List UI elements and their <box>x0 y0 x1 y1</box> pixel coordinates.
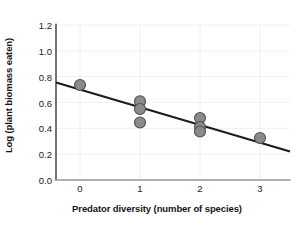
data-point <box>135 103 146 114</box>
y-tick-label: 0.0 <box>22 175 52 186</box>
plot-area <box>56 25 290 180</box>
data-point <box>75 80 86 91</box>
y-axis-title-text: Log (plant biomass eaten) <box>4 37 15 152</box>
x-axis-title: Predator diversity (number of species) <box>18 203 296 214</box>
data-point <box>255 133 266 144</box>
data-point <box>135 117 146 128</box>
y-axis-tick-labels: 0.00.20.40.60.81.01.2 <box>20 25 52 180</box>
y-axis-title: Log (plant biomass eaten) <box>0 0 18 190</box>
y-tick-label: 1.0 <box>22 45 52 56</box>
x-tick-label: 0 <box>68 183 92 194</box>
y-tick-label: 0.2 <box>22 149 52 160</box>
data-points <box>75 80 266 144</box>
y-tick-label: 1.2 <box>22 20 52 31</box>
y-tick-label: 0.8 <box>22 71 52 82</box>
x-axis-tick-labels: 0123 <box>56 183 290 199</box>
y-tick-label: 0.6 <box>22 97 52 108</box>
plot-svg <box>56 25 290 180</box>
gridlines <box>56 25 290 180</box>
data-point <box>195 126 206 137</box>
y-tick-label: 0.4 <box>22 123 52 134</box>
scatter-chart-figure: Log (plant biomass eaten) 0.00.20.40.60.… <box>0 0 296 228</box>
x-tick-label: 2 <box>188 183 212 194</box>
x-tick-label: 1 <box>128 183 152 194</box>
x-tick-label: 3 <box>248 183 272 194</box>
